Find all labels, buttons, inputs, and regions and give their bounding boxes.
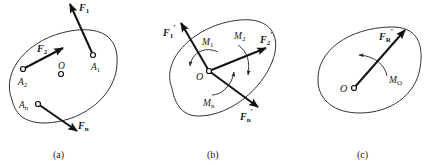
force-system-diagram: F1 F2 Fn A1 A2 An O (a) F1′ F2′ Fn′ M1 M… xyxy=(0,0,425,165)
point-an xyxy=(36,102,41,107)
label-o-c: O xyxy=(340,83,347,94)
caption-b: (b) xyxy=(207,149,219,161)
label-an: An xyxy=(18,100,29,112)
panel-b: F1′ F2′ Fn′ M1 M2 Mn O (b) xyxy=(162,20,276,161)
label-f2-prime: F2′ xyxy=(259,31,272,47)
label-fr-prime: FR′ xyxy=(378,28,393,44)
label-mo: MO xyxy=(388,75,402,87)
point-a2 xyxy=(21,67,26,72)
moment-arc-m2 xyxy=(238,45,249,75)
label-f1: F1 xyxy=(78,2,90,15)
label-mn: Mn xyxy=(202,98,215,110)
force-arrow-fn xyxy=(38,104,77,131)
panel-a: F1 F2 Fn A1 A2 An O (a) xyxy=(9,2,117,161)
point-o-a xyxy=(59,72,64,77)
label-m2: M2 xyxy=(233,31,246,43)
label-o-a: O xyxy=(58,61,65,71)
label-a2: A2 xyxy=(17,77,28,89)
point-a1 xyxy=(91,53,96,58)
label-fn: Fn xyxy=(77,120,89,133)
point-o-c xyxy=(352,86,357,91)
label-m1: M1 xyxy=(201,37,214,49)
force-arrow-fn-prime xyxy=(209,71,258,107)
label-f1-prime: F1′ xyxy=(162,24,175,40)
caption-c: (c) xyxy=(357,149,368,161)
label-a1: A1 xyxy=(90,62,101,74)
label-fn-prime: Fn′ xyxy=(239,108,253,124)
point-o-b xyxy=(207,69,212,74)
panel-c: FR′ MO O (c) xyxy=(318,27,421,161)
caption-a: (a) xyxy=(53,149,64,161)
label-f2: F2 xyxy=(36,43,48,56)
label-o-b: O xyxy=(196,71,203,82)
